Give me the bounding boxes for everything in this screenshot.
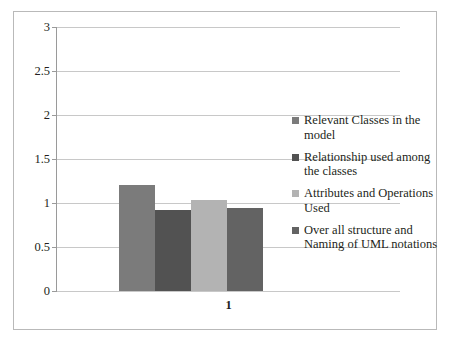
chart-frame: 32.521.510.50 1 Relevant Classes in the … [13, 11, 437, 330]
legend-item[interactable]: Relevant Classes in the model [292, 113, 440, 143]
legend-swatch-icon [292, 117, 299, 124]
legend-swatch-icon [292, 190, 299, 197]
legend-item[interactable]: Over all structure and Naming of UML not… [292, 223, 440, 253]
y-axis-tick-label: 1 [44, 197, 50, 210]
legend-item[interactable]: Attributes and Operations Used [292, 186, 440, 216]
y-axis-tick-label: 3 [44, 21, 50, 34]
bar [191, 200, 227, 291]
y-axis-tick-label: 2 [44, 109, 50, 122]
legend-label: Relevant Classes in the model [304, 113, 440, 143]
legend-label: Attributes and Operations Used [304, 186, 440, 216]
gridline [57, 291, 400, 292]
legend-item[interactable]: Relationship used among the classes [292, 150, 440, 180]
y-axis-tick-label: 2.5 [34, 65, 50, 78]
bar [119, 185, 155, 291]
legend-label: Relationship used among the classes [304, 150, 440, 180]
x-axis-category-label: 1 [57, 298, 400, 313]
y-axis-tick-label: 0.5 [34, 241, 50, 254]
bar [155, 210, 191, 291]
chart-legend: Relevant Classes in the modelRelationshi… [292, 113, 440, 259]
y-axis-tick-label: 1.5 [34, 153, 50, 166]
legend-swatch-icon [292, 154, 299, 161]
bar [227, 208, 263, 291]
y-axis-tick [52, 291, 57, 292]
legend-swatch-icon [292, 227, 299, 234]
y-axis-tick-labels: 32.521.510.50 [14, 27, 50, 291]
y-axis-tick-label: 0 [44, 285, 50, 298]
legend-label: Over all structure and Naming of UML not… [304, 223, 440, 253]
